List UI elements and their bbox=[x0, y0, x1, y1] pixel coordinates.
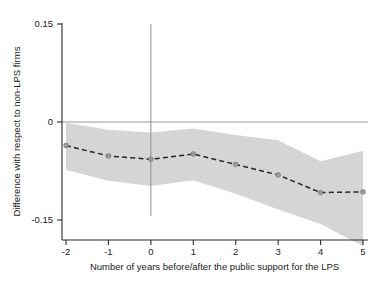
data-point-marker bbox=[106, 154, 111, 159]
line-chart-canvas: 0.150-0.15 -2-1012345 Number of years be… bbox=[0, 0, 390, 289]
y-axis-title: Difference with respect to non-LPS firms bbox=[11, 46, 22, 216]
x-axis-title: Number of years before/after the public … bbox=[90, 261, 339, 272]
x-axis-tick-label: 0 bbox=[148, 246, 153, 257]
data-point-marker bbox=[318, 190, 323, 195]
data-point-marker bbox=[64, 143, 69, 148]
x-axis-tick-label: 3 bbox=[275, 246, 280, 257]
data-point-marker bbox=[191, 152, 196, 157]
data-point-marker bbox=[276, 173, 281, 178]
y-axis-tick-label: 0.15 bbox=[35, 18, 54, 29]
x-axis-tick-label: 2 bbox=[233, 246, 238, 257]
y-axis-tick-label: -0.15 bbox=[31, 214, 53, 225]
data-point-marker bbox=[361, 190, 366, 195]
chart-figure: 0.150-0.15 -2-1012345 Number of years be… bbox=[0, 0, 390, 289]
y-axis-tick-label: 0 bbox=[48, 116, 53, 127]
data-point-marker bbox=[233, 162, 238, 167]
x-axis-tick-label: -1 bbox=[104, 246, 112, 257]
x-axis-tick-label: -2 bbox=[62, 246, 70, 257]
x-axis-tick-label: 1 bbox=[191, 246, 196, 257]
x-axis-tick-label: 4 bbox=[318, 246, 323, 257]
data-point-marker bbox=[148, 157, 153, 162]
x-axis-tick-label: 5 bbox=[360, 246, 365, 257]
